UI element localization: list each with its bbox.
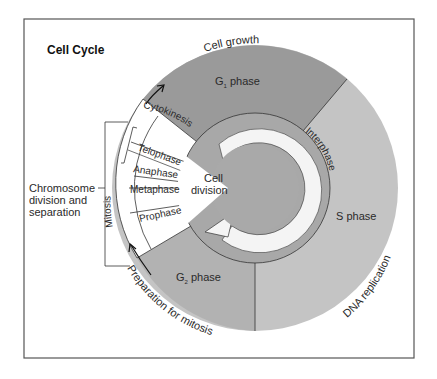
g2-phase-label: G2 phase (176, 271, 221, 285)
s-phase-label: S phase (336, 210, 376, 222)
g1-phase-label: G1 phase (215, 75, 260, 89)
diagram-title: Cell Cycle (47, 43, 105, 57)
side-note-line2: division and (29, 194, 87, 206)
cell-division-label-line1: Cell (204, 172, 223, 184)
side-note-line3: separation (29, 206, 80, 218)
cell-cycle-diagram: Cell Cycle G1 phase S phase G2 phase Cel… (0, 0, 437, 379)
stage-metaphase: Metaphase (130, 184, 180, 195)
side-note-line1: Chromosome (29, 182, 95, 194)
cell-division-label-line2: division (191, 184, 228, 196)
